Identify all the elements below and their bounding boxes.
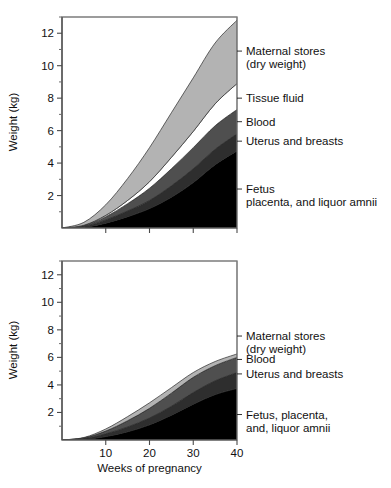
x-tick-label: 30 [187,447,200,459]
legend-label-maternal-stores: Maternal stores [246,45,326,57]
chart-top: 24681012Weight (kg)Maternal stores(dry w… [0,0,391,244]
x-tick-label: 10 [99,447,112,459]
legend-label-uterus-and-breasts: Uterus and breasts [246,135,343,147]
y-tick-label: 12 [41,27,54,39]
legend-label-fetus-placenta: placenta, and liquor amnii [246,196,377,208]
y-tick-label: 6 [48,125,54,137]
x-axis [106,228,237,233]
y-axis: 24681012 [41,261,62,426]
legend-label-blood: Blood [246,353,275,365]
y-axis-title: Weight (kg) [7,93,19,152]
legend-label-blood: Blood [246,116,275,128]
chart-panel-top: 24681012Weight (kg)Maternal stores(dry w… [0,0,391,244]
x-tick-label: 20 [143,447,156,459]
legend-label-fetus-placenta: Fetus, placenta, [246,409,328,421]
y-tick-label: 6 [48,351,54,363]
y-tick-label: 4 [48,379,55,391]
chart-bottom: 24681012Weight (kg)10203040Weeks of preg… [0,244,391,488]
y-tick-label: 2 [48,190,54,202]
legend-label-uterus-and-breasts: Uterus and breasts [246,368,343,380]
legend: Maternal stores(dry weight)Tissue fluidB… [237,45,377,208]
y-tick-label: 8 [48,92,54,104]
y-tick-label: 12 [41,269,54,281]
y-tick-label: 4 [48,157,55,169]
legend: Maternal stores(dry weight)BloodUterus a… [237,330,343,433]
legend-label-fetus-placenta: Fetus [246,183,275,195]
legend-label-maternal-stores: (dry weight) [246,58,306,70]
y-tick-label: 10 [41,296,54,308]
x-axis-title: Weeks of pregnancy [97,462,202,474]
x-axis: 10203040 [99,440,243,459]
stacked-areas [62,20,237,228]
chart-panel-bottom: 24681012Weight (kg)10203040Weeks of preg… [0,244,391,488]
y-axis-title: Weight (kg) [7,321,19,380]
legend-label-maternal-stores: Maternal stores [246,330,326,342]
x-tick-label: 40 [231,447,244,459]
y-tick-label: 8 [48,324,54,336]
y-tick-label: 2 [48,406,54,418]
y-tick-label: 10 [41,60,54,72]
legend-label-fetus-placenta: and, liquor amnii [246,422,330,434]
y-axis: 24681012 [41,17,62,212]
stacked-areas [62,354,237,440]
legend-label-tissue-fluid: Tissue fluid [246,92,304,104]
pregnancy-weight-gain-figure: 24681012Weight (kg)Maternal stores(dry w… [0,0,391,488]
